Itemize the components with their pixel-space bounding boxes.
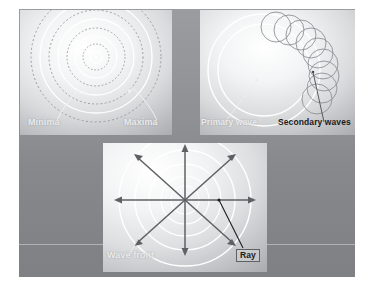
label-primary-wave: Primary wave bbox=[201, 118, 257, 127]
leader-dot-secondary bbox=[312, 71, 315, 74]
ray bbox=[137, 200, 185, 243]
arrowhead-maxima bbox=[127, 88, 132, 94]
ray-arrowhead bbox=[248, 197, 256, 204]
panel-huygens: Primary wave Secondary waves bbox=[200, 10, 355, 135]
primary-wavefront-outer bbox=[208, 14, 320, 126]
ring-dashed bbox=[31, 10, 161, 122]
primary-wavefront-inner bbox=[218, 24, 310, 116]
leader-line-minima bbox=[57, 88, 82, 120]
rays bbox=[117, 147, 253, 253]
label-maxima: Maxima bbox=[124, 118, 158, 127]
primary-wavefronts bbox=[208, 14, 320, 126]
secondary-wavelet bbox=[286, 20, 316, 50]
ray bbox=[137, 157, 185, 200]
ray-arrowhead bbox=[114, 197, 122, 204]
panel-interference: Minima Maxima bbox=[20, 10, 172, 135]
leader-dot-primary bbox=[256, 79, 259, 82]
label-secondary-waves: Secondary waves bbox=[278, 118, 351, 127]
leader-line-maxima bbox=[132, 88, 157, 120]
figure-canvas: Minima Maxima bbox=[0, 0, 370, 286]
ray-arrowhead bbox=[182, 144, 189, 152]
label-minima: Minima bbox=[28, 118, 60, 127]
ray bbox=[185, 200, 233, 243]
label-wave-front: Wave front bbox=[107, 251, 154, 260]
ring-solid bbox=[40, 10, 152, 113]
panel-wavefront-ray: Wave front Ray bbox=[103, 143, 267, 272]
ray bbox=[185, 157, 233, 200]
wavefront-ray-leader-lines bbox=[129, 200, 243, 255]
label-ray: Ray bbox=[236, 249, 260, 262]
source-point bbox=[94, 55, 97, 58]
interference-rings bbox=[31, 10, 161, 122]
ray-arrowhead bbox=[182, 248, 189, 256]
leader-dot-ray bbox=[217, 198, 220, 201]
